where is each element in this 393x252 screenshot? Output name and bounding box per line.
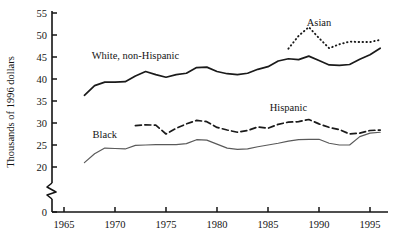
y-tick-label-50: 50	[37, 30, 48, 41]
y-tick-label-45: 45	[37, 52, 48, 63]
x-tick-label-1985: 1985	[258, 219, 279, 230]
y-axis-title-group: Thousands of 1996 dollars	[5, 56, 16, 168]
y-tick-label-55: 55	[37, 8, 48, 19]
tick-labels: 0202530354045505519651970197519801985199…	[37, 8, 381, 230]
x-tick-label-1990: 1990	[309, 219, 330, 230]
series-label-asian: Asian	[307, 17, 332, 28]
series-label-hispanic: Hispanic	[270, 102, 308, 113]
series-line-black	[84, 132, 380, 162]
y-tick-label-35: 35	[37, 96, 48, 107]
chart-axes	[47, 11, 388, 212]
y-axis-title: Thousands of 1996 dollars	[5, 56, 16, 168]
y-axis-break-glyph	[47, 183, 56, 199]
x-tick-label-1975: 1975	[156, 219, 177, 230]
x-tick-label-1995: 1995	[360, 219, 381, 230]
chart-svg: 0202530354045505519651970197519801985199…	[0, 0, 393, 252]
x-tick-label-1980: 1980	[207, 219, 228, 230]
x-tick-label-1965: 1965	[54, 219, 75, 230]
series-label-black: Black	[93, 129, 118, 140]
x-tick-label-1970: 1970	[105, 219, 126, 230]
y-tick-label-25: 25	[37, 140, 48, 151]
series-line-asian	[288, 27, 380, 49]
series-label-white-non-hispanic: White, non-Hispanic	[92, 50, 180, 61]
y-tick-label-20: 20	[37, 162, 48, 173]
y-tick-label-0: 0	[42, 207, 47, 218]
y-tick-label-30: 30	[37, 118, 48, 129]
chart-figure: 0202530354045505519651970197519801985199…	[0, 0, 393, 252]
series-line-hispanic	[135, 119, 380, 134]
y-tick-label-40: 40	[37, 74, 48, 85]
data-series-group	[84, 27, 380, 163]
